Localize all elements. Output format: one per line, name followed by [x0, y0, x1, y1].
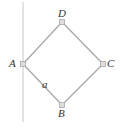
vertex-c-marker — [101, 62, 106, 67]
vertex-d-marker — [60, 20, 65, 25]
square-outline — [23, 22, 103, 105]
vertex-c-label: C — [107, 58, 114, 69]
edge-label-a: a — [42, 79, 48, 90]
vertex-a-marker — [21, 62, 26, 67]
vertex-d-label: D — [58, 8, 66, 19]
vertex-a-label: A — [9, 58, 16, 69]
vertex-b-label: B — [58, 108, 65, 119]
diagram-canvas: A B C D a — [0, 0, 121, 128]
